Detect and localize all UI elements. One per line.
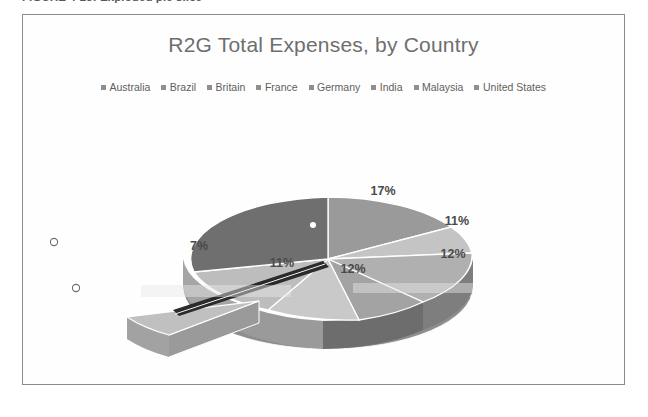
legend-item-australia[interactable]: Australia xyxy=(101,81,150,93)
pie-data-label-3: 12% xyxy=(340,262,365,276)
legend-swatch-icon xyxy=(371,85,376,90)
legend-swatch-icon xyxy=(309,85,314,90)
legend-item-label: France xyxy=(265,81,298,93)
pie-data-label-4: 11% xyxy=(270,256,294,270)
selection-handle-center[interactable] xyxy=(309,221,316,228)
legend-swatch-icon xyxy=(474,85,479,90)
pie-slice-malaysia[interactable] xyxy=(191,197,328,272)
legend-swatch-icon xyxy=(161,85,166,90)
legend-item-label: Britain xyxy=(216,81,246,93)
legend-item-brazil[interactable]: Brazil xyxy=(161,81,196,93)
pie-data-label-0: 17% xyxy=(370,184,395,198)
legend-item-united-states[interactable]: United States xyxy=(474,81,546,93)
legend-item-label: India xyxy=(380,81,403,93)
legend-item-label: Germany xyxy=(317,81,360,93)
pie-data-label-1: 11% xyxy=(445,214,469,228)
pie-data-label-2: 12% xyxy=(440,247,465,261)
legend-item-label: Australia xyxy=(109,81,150,93)
legend-item-france[interactable]: France xyxy=(256,81,297,93)
pie-chart-svg[interactable]: 17%11%12%12%11%7% xyxy=(23,111,626,376)
legend-swatch-icon xyxy=(207,85,212,90)
selection-handle-left[interactable] xyxy=(50,238,57,245)
selection-handle-bottom[interactable] xyxy=(72,284,79,291)
figure-caption: FIGURE 4-23: Exploded pie slice xyxy=(22,0,442,5)
legend-swatch-icon xyxy=(414,85,419,90)
scan-artifact-1 xyxy=(141,285,291,297)
legend-swatch-icon xyxy=(101,85,106,90)
pie-data-label-5: 7% xyxy=(190,239,208,253)
legend-swatch-icon xyxy=(256,85,261,90)
legend-item-germany[interactable]: Germany xyxy=(309,81,361,93)
pie-plot-area[interactable]: 17%11%12%12%11%7% xyxy=(23,111,624,376)
legend-item-india[interactable]: India xyxy=(371,81,402,93)
legend-item-label: United States xyxy=(483,81,546,93)
legend-item-label: Brazil xyxy=(170,81,196,93)
chart-frame[interactable]: R2G Total Expenses, by Country Australia… xyxy=(22,14,625,385)
legend-item-britain[interactable]: Britain xyxy=(207,81,245,93)
chart-legend[interactable]: AustraliaBrazilBritainFranceGermanyIndia… xyxy=(23,81,624,93)
chart-title[interactable]: R2G Total Expenses, by Country xyxy=(23,33,624,57)
scan-artifact-2 xyxy=(353,283,473,293)
legend-item-label: Malaysia xyxy=(422,81,463,93)
legend-item-malaysia[interactable]: Malaysia xyxy=(414,81,464,93)
